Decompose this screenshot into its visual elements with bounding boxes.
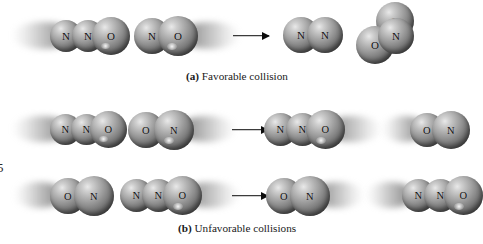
molecule-dinitrogen-monoxide-b1-product: N N O bbox=[262, 108, 388, 150]
reaction-arrow bbox=[232, 191, 268, 200]
molecule-dinitrogen-monoxide-b2: N N O bbox=[118, 174, 246, 216]
page-edge-artifact: 5 bbox=[0, 160, 5, 178]
caption-text: Unfavorable collisions bbox=[194, 222, 296, 234]
molecule-nitrogen-monoxide-b2: O N bbox=[14, 174, 118, 216]
atom-label: O bbox=[163, 176, 202, 215]
caption-tag: (b) bbox=[178, 222, 192, 234]
molecule-nitrogen-monoxide-b1-product: O N bbox=[382, 108, 470, 150]
atom-oxygen: O bbox=[90, 111, 127, 148]
arrow-head bbox=[262, 32, 270, 40]
atom-label: N bbox=[432, 111, 470, 149]
atom-oxygen: O bbox=[92, 17, 130, 55]
atom-nitrogen: N bbox=[74, 176, 114, 216]
atom-nitrogen: N bbox=[307, 17, 343, 53]
atom-oxygen: O bbox=[158, 16, 198, 56]
molecule-nitrogen-monoxide-b1: O N bbox=[128, 108, 240, 150]
atom-label: N bbox=[290, 176, 330, 216]
molecule-dinitrogen-monoxide-b2-product: N N O bbox=[366, 174, 478, 216]
molecule-nitrogen-dioxide: O O N bbox=[356, 2, 430, 66]
atom-label: O bbox=[158, 16, 198, 56]
atom-nitrogen: N bbox=[290, 176, 330, 216]
atom-label: O bbox=[444, 176, 483, 215]
molecule-nitrogen-monoxide-b2-product: O N bbox=[266, 174, 370, 216]
atom-label: O bbox=[92, 17, 130, 55]
atom-nitrogen: N bbox=[432, 111, 470, 149]
caption-text: Favorable collision bbox=[202, 70, 288, 82]
caption-unfavorable: (b) Unfavorable collisions bbox=[178, 222, 296, 234]
reaction-arrow bbox=[233, 31, 269, 40]
atom-label: N bbox=[307, 17, 343, 53]
atom-nitrogen: N bbox=[378, 18, 414, 54]
molecule-dinitrogen-monoxide-b1: N N O bbox=[12, 108, 132, 150]
molecule-dinitrogen-monoxide-a: N N O bbox=[12, 14, 132, 56]
caption-tag: (a) bbox=[186, 70, 199, 82]
caption-favorable: (a) Favorable collision bbox=[186, 70, 288, 82]
atom-nitrogen: N bbox=[154, 110, 194, 150]
atom-label: N bbox=[74, 176, 114, 216]
atom-label: N bbox=[378, 18, 414, 54]
atom-label: O bbox=[306, 110, 345, 149]
atom-oxygen: O bbox=[444, 176, 483, 215]
molecule-dinitrogen: N N bbox=[283, 14, 349, 56]
atom-label: N bbox=[154, 110, 194, 150]
atom-oxygen: O bbox=[306, 110, 345, 149]
molecule-nitrogen-monoxide-a: N O bbox=[132, 14, 242, 56]
atom-label: O bbox=[90, 111, 127, 148]
atom-oxygen: O bbox=[163, 176, 202, 215]
